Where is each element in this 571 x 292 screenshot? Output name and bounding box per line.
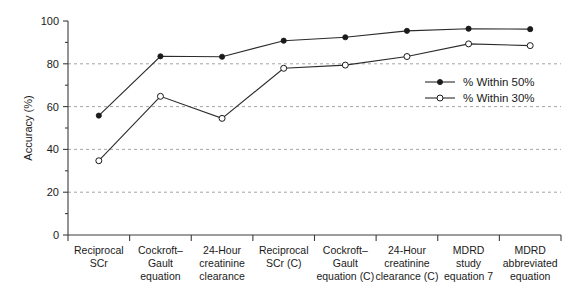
data-point	[528, 27, 533, 32]
y-axis: 020406080100	[41, 15, 68, 241]
series-1	[96, 26, 533, 118]
x-category-label-7: study	[456, 257, 482, 269]
y-axis-title: Accuracy (%)	[22, 95, 34, 160]
data-point	[527, 43, 533, 49]
x-category-label-2: equation	[140, 270, 180, 282]
data-point	[404, 28, 409, 33]
data-point	[281, 38, 286, 43]
x-category-label-7: MDRD	[453, 244, 485, 256]
legend-label-2: % Within 30%	[463, 92, 535, 104]
legend-marker-1	[437, 79, 442, 84]
data-point	[343, 35, 348, 40]
x-category-label-8: abbreviated	[503, 257, 558, 269]
y-tick-label-40: 40	[47, 143, 59, 155]
x-category-label-6: 24-Hour	[388, 244, 426, 256]
legend-label-1: % Within 50%	[463, 76, 535, 88]
data-point	[342, 62, 348, 68]
x-category-label-8: MDRD	[514, 244, 546, 256]
x-category-label-5: Cockroft–	[323, 244, 368, 256]
legend-marker-2	[437, 95, 443, 101]
x-axis	[68, 235, 561, 241]
y-tick-label-0: 0	[53, 229, 59, 241]
x-category-label-3: 24-Hour	[203, 244, 241, 256]
data-point	[404, 54, 410, 60]
x-category-label-5: equation (C)	[316, 270, 374, 282]
x-category-label-4: SCr (C)	[266, 257, 302, 269]
category-labels: ReciprocalSCrCockroft–Gaultequation24-Ho…	[74, 244, 558, 282]
data-point	[96, 158, 102, 164]
accuracy-line-chart: 020406080100 Accuracy (%) ReciprocalSCrC…	[0, 0, 571, 292]
x-category-label-8: equation	[510, 270, 550, 282]
data-point	[281, 65, 287, 71]
chart-figure: 020406080100 Accuracy (%) ReciprocalSCrC…	[0, 0, 571, 292]
x-category-label-7: equation 7	[444, 270, 493, 282]
chart-legend: % Within 50%% Within 30%	[425, 76, 535, 104]
data-point	[96, 113, 101, 118]
data-point	[157, 93, 163, 99]
x-category-label-5: Gault	[333, 257, 358, 269]
y-tick-label-100: 100	[41, 15, 59, 27]
x-category-label-2: Cockroft–	[138, 244, 183, 256]
x-category-label-4: Reciprocal	[259, 244, 309, 256]
x-category-label-3: creatinine	[199, 257, 245, 269]
y-tick-label-20: 20	[47, 186, 59, 198]
y-tick-label-80: 80	[47, 58, 59, 70]
data-point	[466, 41, 472, 47]
x-category-label-6: creatinine	[384, 257, 430, 269]
x-category-label-6: clearance (C)	[375, 270, 438, 282]
data-point	[466, 26, 471, 31]
data-point	[219, 54, 224, 59]
y-tick-label-60: 60	[47, 101, 59, 113]
x-category-label-1: Reciprocal	[74, 244, 124, 256]
data-point	[158, 54, 163, 59]
x-category-label-1: SCr	[90, 257, 109, 269]
x-category-label-3: clearance	[199, 270, 245, 282]
data-point	[219, 115, 225, 121]
x-category-label-2: Gault	[148, 257, 173, 269]
